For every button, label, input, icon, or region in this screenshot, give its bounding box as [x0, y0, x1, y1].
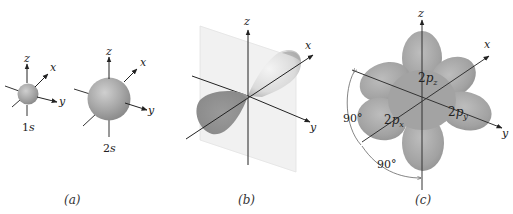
axis-x [35, 74, 48, 87]
x-label: x [50, 61, 57, 74]
panel-a: z x y 1s z x y 2s (a) [5, 45, 155, 207]
axis-x [124, 69, 137, 82]
orbital-diagram: z x y 1s z x y 2s (a) [0, 0, 513, 214]
panel-c: z x y 2pz 2px 2py 90° 90° (c) [343, 7, 509, 207]
z-label: z [105, 45, 112, 58]
angle-label-upper: 90° [343, 112, 363, 125]
axis-y-back [74, 89, 90, 94]
caption-c: (c) [415, 193, 431, 207]
angle-label-lower: 90° [377, 158, 397, 171]
axis-y [37, 97, 57, 102]
orbital-1s: z x y 1s [5, 52, 66, 134]
y-label: y [309, 121, 317, 134]
y-label: y [147, 104, 155, 117]
z-label: z [417, 7, 424, 20]
caption-a: (a) [64, 193, 81, 207]
orbital-label-2s: 2s [103, 142, 116, 155]
angle-arc-upper [347, 72, 361, 145]
z-label: z [243, 15, 250, 28]
sphere-2s [88, 78, 131, 121]
x-label: x [305, 39, 312, 52]
y-label: y [58, 95, 66, 108]
z-label: z [23, 52, 30, 65]
axis-y-back [5, 86, 19, 91]
x-label: x [484, 38, 491, 51]
x-label: x [140, 56, 147, 69]
y-label: y [501, 127, 509, 140]
orbital-2s: z x y 2s [74, 45, 155, 155]
orbital-label-1s: 1s [22, 121, 35, 134]
axis-x-back [12, 100, 20, 107]
caption-b: (b) [238, 193, 255, 207]
p-orbital-lobes [352, 31, 496, 171]
panel-b: z x y (b) [186, 15, 317, 207]
